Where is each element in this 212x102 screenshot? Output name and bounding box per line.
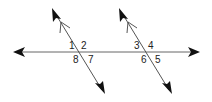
arrowhead-down-icon: [95, 81, 105, 94]
angle-label-7: 7: [88, 54, 94, 65]
angle-label-4: 4: [148, 40, 154, 51]
parallel-lines-diagram: 1 2 8 7 3 4 6 5: [0, 0, 212, 102]
angle-label-6: 6: [141, 54, 147, 65]
angle-label-1: 1: [69, 40, 75, 51]
angle-label-5: 5: [155, 54, 161, 65]
angle-label-8: 8: [73, 54, 79, 65]
angle-label-2: 2: [81, 40, 87, 51]
parallel-line-right: [119, 8, 172, 94]
arrowhead-down-icon: [162, 81, 172, 94]
parallel-line-left: [52, 8, 105, 94]
angle-label-3: 3: [134, 40, 140, 51]
transversal-line: [13, 47, 200, 57]
